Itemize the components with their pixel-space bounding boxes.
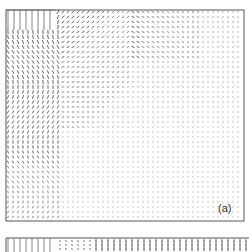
vector-arrow — [142, 51, 145, 52]
vector-arrow — [77, 26, 80, 28]
vector-arrow — [122, 57, 124, 58]
vector-arrow — [32, 111, 34, 114]
vector-arrow — [67, 51, 70, 52]
vector-arrow — [13, 151, 14, 154]
vector-arrow — [12, 121, 14, 124]
vector-arrow — [33, 211, 34, 213]
vector-arrow — [7, 171, 9, 174]
vector-arrow — [42, 75, 43, 79]
vector-arrow — [72, 248, 73, 250]
vector-arrow — [42, 60, 44, 63]
panel-a-label: (a) — [218, 202, 231, 214]
vector-arrow — [7, 105, 9, 108]
vector-arrow — [42, 216, 43, 218]
vector-arrow — [22, 181, 23, 184]
vector-arrow — [57, 181, 58, 184]
vector-arrow — [17, 95, 18, 98]
vector-arrow — [182, 42, 184, 43]
vector-arrow — [177, 22, 179, 23]
vector-arrow — [22, 40, 23, 44]
vector-arrow — [37, 70, 39, 74]
vector-arrow — [57, 171, 59, 174]
vector-arrow — [72, 26, 75, 28]
vector-arrow — [38, 206, 39, 209]
vector-arrow — [27, 100, 28, 103]
vector-arrow — [77, 41, 80, 43]
vector-arrow — [7, 176, 8, 179]
vector-arrow — [97, 72, 99, 73]
vector-arrow — [38, 90, 39, 94]
vector-arrow — [52, 121, 54, 124]
vector-arrow — [28, 90, 29, 94]
vector-arrow — [137, 41, 140, 42]
vector-arrow — [47, 156, 48, 159]
vector-arrow — [18, 90, 19, 94]
vector-arrow — [122, 41, 124, 42]
vector-arrow — [47, 65, 49, 68]
vector-arrow — [27, 105, 29, 108]
vector-arrow — [177, 42, 179, 43]
vector-arrow — [167, 16, 169, 17]
vector-arrow — [13, 90, 14, 94]
vector-arrow — [102, 77, 104, 78]
vector-arrow — [53, 90, 54, 94]
vector-arrow — [62, 61, 65, 62]
vector-arrow — [92, 26, 95, 28]
vector-arrow — [32, 100, 33, 103]
vector-arrow — [107, 56, 109, 57]
vector-arrow — [107, 72, 109, 73]
vector-arrow — [12, 161, 13, 164]
vector-arrow — [32, 105, 34, 108]
vector-arrow — [152, 56, 155, 57]
vector-arrow — [82, 31, 85, 33]
vector-arrow — [12, 116, 14, 119]
vector-arrow — [152, 16, 155, 17]
vector-arrow — [152, 11, 155, 12]
vector-arrow — [97, 11, 99, 13]
vector-arrow — [42, 125, 43, 128]
vector-arrow — [17, 55, 19, 58]
vector-arrow — [102, 36, 104, 37]
vector-arrow — [137, 51, 140, 52]
vector-arrow — [12, 216, 13, 218]
vector-arrow — [72, 31, 75, 33]
vector-arrow — [22, 176, 23, 179]
vector-arrow — [122, 11, 124, 13]
vector-arrow — [162, 16, 164, 17]
vector-arrow — [157, 21, 160, 22]
vector-arrow — [112, 41, 114, 42]
vector-arrow — [22, 111, 24, 114]
vector-arrow — [147, 36, 150, 37]
vector-arrow — [12, 100, 13, 103]
vector-arrow — [42, 95, 43, 98]
vector-arrow — [43, 80, 44, 84]
vector-arrow — [127, 16, 129, 18]
vector-arrow — [77, 61, 80, 62]
vector-arrow — [38, 80, 39, 84]
vector-arrow — [37, 100, 38, 103]
vector-arrow — [127, 36, 129, 37]
vector-arrow — [92, 11, 95, 13]
vector-arrow — [37, 60, 39, 63]
vector-arrow — [182, 17, 184, 18]
vector-arrow — [112, 72, 114, 73]
vector-arrow — [7, 75, 8, 79]
vector-arrow — [122, 21, 124, 23]
vector-arrow — [12, 95, 13, 98]
vector-arrow — [7, 65, 9, 68]
vector-arrow — [102, 26, 104, 28]
vector-arrow — [17, 60, 19, 63]
vector-arrow — [117, 16, 119, 18]
vector-arrow — [33, 151, 34, 154]
vector-arrow — [162, 41, 164, 42]
vector-arrow — [82, 16, 85, 18]
vector-arrow — [152, 26, 155, 27]
vector-arrow — [77, 11, 80, 13]
vector-arrow — [72, 244, 73, 246]
vector-arrow — [52, 166, 54, 169]
vector-arrow — [37, 50, 39, 54]
vector-arrow — [167, 11, 169, 12]
vector-arrow — [37, 75, 38, 79]
vector-arrow — [87, 26, 90, 28]
vector-arrow — [32, 40, 33, 44]
